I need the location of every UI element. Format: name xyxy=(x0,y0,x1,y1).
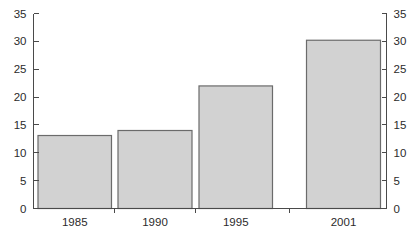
y-tick-label-left-5: 5 xyxy=(20,175,26,187)
chart-canvas: 0510152025303505101520253035198519901995… xyxy=(0,0,415,236)
y-tick-label-left-0: 0 xyxy=(20,203,26,215)
y-tick-label-right-35: 35 xyxy=(394,8,407,20)
category-labels-group: 1985199019952001 xyxy=(62,216,356,228)
y-tick-label-left-35: 35 xyxy=(14,8,27,20)
y-tick-label-right-5: 5 xyxy=(394,175,400,187)
y-tick-label-left-25: 25 xyxy=(14,63,27,75)
y-tick-label-right-0: 0 xyxy=(394,203,400,215)
bar-1985 xyxy=(38,136,112,209)
x-axis-label-1990: 1990 xyxy=(142,216,168,228)
bar-chart: 0510152025303505101520253035198519901995… xyxy=(0,0,415,236)
x-axis-label-1985: 1985 xyxy=(62,216,88,228)
y-tick-label-right-15: 15 xyxy=(394,119,407,131)
y-tick-label-right-20: 20 xyxy=(394,91,407,103)
y-tick-label-left-20: 20 xyxy=(14,91,27,103)
y-tick-label-right-10: 10 xyxy=(394,147,407,159)
x-axis-label-1995: 1995 xyxy=(223,216,249,228)
bars-group xyxy=(38,40,381,208)
bar-1990 xyxy=(118,131,192,209)
bar-1995 xyxy=(199,86,273,209)
y-tick-label-left-30: 30 xyxy=(14,35,27,47)
y-tick-label-left-10: 10 xyxy=(14,147,27,159)
y-tick-label-left-15: 15 xyxy=(14,119,27,131)
y-tick-label-right-30: 30 xyxy=(394,35,407,47)
y-tick-label-right-25: 25 xyxy=(394,63,407,75)
x-axis-label-2001: 2001 xyxy=(331,216,357,228)
bar-2001 xyxy=(307,40,381,208)
